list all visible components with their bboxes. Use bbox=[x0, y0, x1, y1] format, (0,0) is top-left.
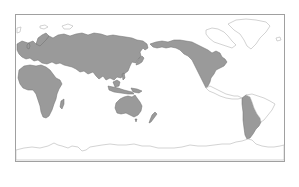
region-central-america bbox=[206, 86, 242, 99]
region-indonesia bbox=[108, 86, 134, 94]
region-svalbard bbox=[40, 25, 48, 29]
world-map bbox=[0, 0, 299, 187]
region-iceland bbox=[276, 37, 281, 41]
region-philippines bbox=[122, 73, 125, 80]
region-severnaya-zemlya bbox=[17, 27, 21, 33]
region-north-america bbox=[150, 40, 227, 88]
region-australia bbox=[115, 95, 142, 117]
region-borneo bbox=[113, 80, 120, 87]
region-new-zealand bbox=[149, 112, 157, 123]
region-novaya-zemlya bbox=[62, 24, 73, 29]
region-canadian-arctic bbox=[206, 28, 236, 48]
region-new-guinea bbox=[131, 88, 142, 93]
region-africa bbox=[18, 65, 62, 118]
region-tasmania bbox=[135, 119, 137, 122]
region-madagascar bbox=[60, 99, 64, 109]
region-antarctica bbox=[16, 139, 284, 160]
filled-regions bbox=[17, 33, 261, 139]
